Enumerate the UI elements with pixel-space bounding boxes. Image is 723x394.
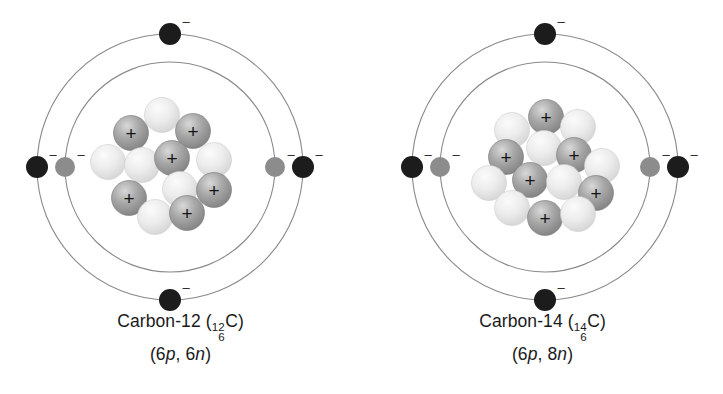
proton: + [528,201,563,236]
electron-charge-label: – [77,147,85,162]
nucleus: ++++++ [472,100,620,236]
electron-outer-left: – [26,147,57,178]
neutron [125,148,160,183]
isotope-name: Carbon-14 [479,311,563,331]
neutron-sphere [91,145,126,180]
electron-outer-bottom: – [159,280,190,311]
element-symbol: C [587,311,600,331]
proton-charge-label: + [181,203,192,224]
electron-inner-right: – [640,147,670,177]
electron-charge-label: – [182,14,190,29]
neutron [547,165,582,200]
electron-outer-right: – [292,147,323,178]
proton-charge-label: + [524,170,535,191]
neutron-symbol: n [557,344,567,364]
proton: + [114,116,149,151]
proton-symbol: p [528,344,538,364]
electron-inner-right: – [265,147,295,177]
proton-charge-label: + [123,188,134,209]
proton: + [529,100,564,135]
caption-carbon-14: Carbon-14 (146C) (6p, 8n) [362,310,723,366]
electron-charge-label: – [557,14,565,29]
neutron-sphere [495,191,530,226]
nucleon-composition: (6p, 8n) [362,343,723,366]
nucleon-composition: (6p, 6n) [0,343,361,366]
neutron-sphere [125,148,160,183]
nuclide-numbers: 146 [574,322,587,343]
proton-symbol: p [166,344,176,364]
electron-charge-label: – [424,147,432,162]
atom-svg-carbon-12: ++++++ – – – – – [0,0,361,320]
neutron [91,145,126,180]
proton-charge-label: + [568,145,579,166]
atomic-number: 6 [574,332,587,343]
electron-charge-label: – [287,147,295,162]
proton: + [155,141,190,176]
atom-diagram-carbon-14: ++++++ – – – – – – [362,0,723,394]
isotope-comparison-figure: ++++++ – – – – – [0,0,723,394]
neutron [527,131,562,166]
proton-charge-label: + [500,147,511,168]
neutron-sphere [145,98,180,133]
atom-svg-carbon-14: ++++++ – – – – – – [362,0,723,320]
electron-charge-label: – [315,147,323,162]
proton-charge-label: + [125,123,136,144]
electron-inner-left: – [55,147,85,177]
electron-outer-bottom: – [534,280,565,311]
proton-charge-label: + [187,121,198,142]
electron-charge-label: – [182,280,190,295]
proton-charge-label: + [208,180,219,201]
proton-charge-label: + [540,107,551,128]
isotope-notation: (146C) [568,310,606,343]
neutron [495,191,530,226]
isotope-notation: (126C) [206,310,244,343]
neutron [138,200,173,235]
electron-charge-label: – [662,147,670,162]
neutron-sphere [547,165,582,200]
neutron-symbol: n [195,344,205,364]
isotope-name: Carbon-12 [117,311,201,331]
nucleus: ++++++ [91,98,232,235]
outer-shell-orbit [412,34,678,300]
electron-charge-label: – [452,147,460,162]
neutron [561,197,596,232]
nuclide-numbers: 126 [212,322,225,343]
electron-outer-top: – [159,14,190,45]
electron-charge-label: – [690,147,698,162]
neutron-sphere [561,197,596,232]
neutron [145,98,180,133]
electron-charge-label: – [557,280,565,295]
caption-carbon-12: Carbon-12 (126C) (6p, 6n) [0,310,361,366]
proton-charge-label: + [539,208,550,229]
atomic-number: 6 [212,332,225,343]
proton: + [197,173,232,208]
element-symbol: C [225,311,238,331]
neutron-sphere [527,131,562,166]
electron-inner-left: – [430,147,460,177]
proton: + [170,196,205,231]
electron-outer-top: – [534,14,565,45]
proton-charge-label: + [590,183,601,204]
electron-charge-label: – [49,147,57,162]
proton-charge-label: + [166,148,177,169]
electron-outer-right: – [667,147,698,178]
electron-outer-left: – [401,147,432,178]
atom-diagram-carbon-12: ++++++ – – – – – [0,0,361,394]
neutron-sphere [138,200,173,235]
